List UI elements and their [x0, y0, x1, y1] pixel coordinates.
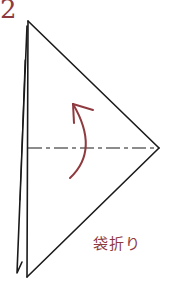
origami-diagram [0, 0, 181, 286]
fold-caption: 袋折り [93, 232, 141, 253]
curved-arrow-icon [70, 104, 93, 178]
